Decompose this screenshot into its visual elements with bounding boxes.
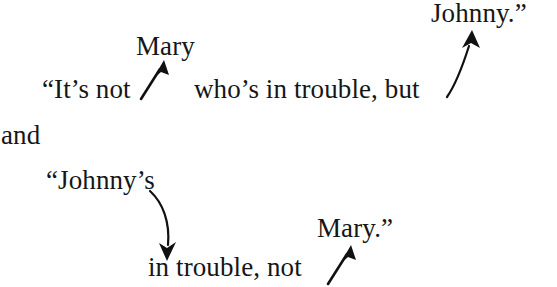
conjunction-and: and (1, 122, 40, 149)
referent-johnny-upper: Johnny.” (431, 0, 527, 27)
arrow-layer (0, 0, 557, 287)
arrow-but-to-johnny-icon (447, 30, 480, 97)
linguistic-reference-figure: Mary Johnny.” “It’s not who’s in trouble… (0, 0, 557, 287)
referent-mary-lower: Mary.” (317, 215, 393, 242)
referent-mary-upper: Mary (136, 33, 195, 60)
arrow-not-to-mary-icon (141, 60, 169, 99)
arrow-not-to-mary-lower-icon (328, 245, 356, 284)
sentence2-opening-text: “Johnny’s (46, 167, 155, 194)
arrow-johnnys-to-in-trouble-icon (150, 191, 176, 261)
sentence1-middle-text: who’s in trouble, but (194, 76, 420, 103)
sentence2-continuation-text: in trouble, not (148, 254, 302, 281)
sentence1-opening-text: “It’s not (42, 76, 131, 103)
